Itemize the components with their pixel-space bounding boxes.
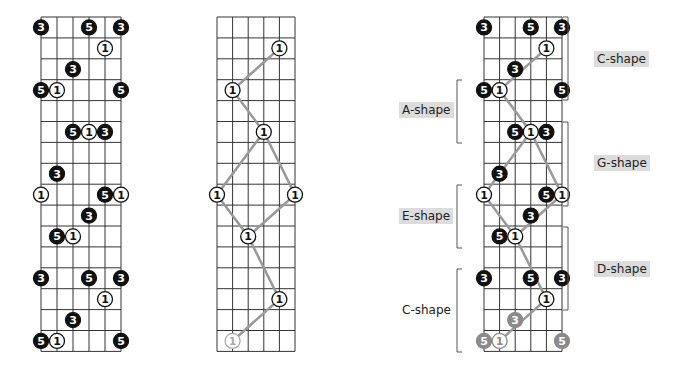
svg-text:1: 1 [101, 293, 109, 306]
note-marker: 1 [508, 229, 523, 244]
note-marker: 5 [34, 333, 49, 348]
svg-text:1: 1 [117, 189, 125, 202]
svg-text:1: 1 [37, 189, 45, 202]
note-marker: 5 [492, 229, 507, 244]
fretboard-canvas: 3531351551331513513531351511111111353135… [0, 0, 677, 375]
svg-text:5: 5 [558, 84, 566, 97]
svg-text:3: 3 [117, 21, 125, 34]
svg-text:5: 5 [543, 189, 551, 202]
note-marker: 1 [288, 187, 303, 202]
shape-bracket [457, 80, 462, 143]
note-marker: 1 [523, 124, 538, 139]
svg-text:5: 5 [53, 230, 61, 243]
note-marker: 5 [555, 83, 570, 98]
note-marker: 3 [555, 271, 570, 286]
note-marker: 5 [34, 83, 49, 98]
note-marker: 3 [66, 313, 81, 328]
note-marker: 3 [98, 124, 113, 139]
note-marker: 5 [523, 20, 538, 35]
note-marker: 5 [477, 333, 492, 348]
note-marker: 5 [98, 187, 113, 202]
svg-text:3: 3 [53, 168, 61, 181]
svg-text:3: 3 [117, 272, 125, 285]
svg-text:5: 5 [527, 21, 535, 34]
note-marker: 5 [114, 333, 129, 348]
svg-text:3: 3 [558, 272, 566, 285]
note-marker: 3 [555, 20, 570, 35]
svg-text:3: 3 [511, 63, 519, 76]
svg-text:1: 1 [85, 126, 93, 139]
svg-text:3: 3 [511, 314, 519, 327]
note-marker: 1 [492, 333, 507, 348]
note-marker: 5 [82, 271, 97, 286]
note-marker: 1 [82, 124, 97, 139]
svg-text:3: 3 [543, 126, 551, 139]
svg-text:1: 1 [229, 84, 237, 97]
svg-text:5: 5 [511, 126, 519, 139]
svg-text:1: 1 [229, 335, 237, 348]
note-marker: 5 [523, 271, 538, 286]
svg-text:1: 1 [543, 42, 551, 55]
svg-text:5: 5 [85, 21, 93, 34]
note-marker: 1 [241, 229, 256, 244]
note-marker: 1 [477, 187, 492, 202]
a-shape-label: A-shape [399, 102, 454, 118]
svg-text:1: 1 [53, 335, 61, 348]
note-marker: 3 [34, 271, 49, 286]
svg-text:1: 1 [480, 189, 488, 202]
note-marker: 1 [272, 292, 287, 307]
svg-text:1: 1 [213, 189, 221, 202]
svg-text:3: 3 [101, 126, 109, 139]
svg-text:1: 1 [69, 230, 77, 243]
note-marker: 3 [477, 271, 492, 286]
note-marker: 1 [50, 83, 65, 98]
note-marker: 1 [225, 333, 240, 348]
note-marker: 1 [225, 83, 240, 98]
svg-text:3: 3 [527, 210, 535, 223]
note-marker: 1 [50, 333, 65, 348]
note-marker: 3 [508, 313, 523, 328]
svg-text:5: 5 [480, 335, 488, 348]
svg-text:3: 3 [37, 272, 45, 285]
svg-text:1: 1 [558, 189, 566, 202]
svg-text:1: 1 [276, 293, 284, 306]
svg-text:3: 3 [480, 21, 488, 34]
svg-text:3: 3 [496, 168, 504, 181]
svg-text:3: 3 [558, 21, 566, 34]
note-marker: 3 [82, 208, 97, 223]
g-shape-label: G-shape [594, 155, 650, 171]
note-marker: 1 [98, 41, 113, 56]
d-shape-label: D-shape [594, 261, 650, 277]
note-marker: 1 [539, 292, 554, 307]
note-marker: 1 [210, 187, 225, 202]
note-marker: 3 [34, 20, 49, 35]
svg-text:5: 5 [527, 272, 535, 285]
svg-text:5: 5 [496, 230, 504, 243]
svg-text:1: 1 [101, 42, 109, 55]
svg-text:1: 1 [291, 189, 299, 202]
note-marker: 3 [50, 166, 65, 181]
svg-text:5: 5 [85, 272, 93, 285]
svg-text:1: 1 [244, 230, 252, 243]
svg-text:5: 5 [37, 84, 45, 97]
shapes-diagram: 35313515513315135135313515 [477, 17, 570, 351]
e-shape-label: E-shape [399, 208, 453, 224]
shape-bracket [563, 227, 568, 310]
note-marker: 3 [66, 62, 81, 77]
svg-text:3: 3 [85, 210, 93, 223]
svg-text:3: 3 [69, 63, 77, 76]
svg-text:1: 1 [496, 335, 504, 348]
note-marker: 3 [539, 124, 554, 139]
note-marker: 1 [555, 187, 570, 202]
c-shape-bottom-label: C-shape [399, 302, 454, 318]
svg-text:5: 5 [101, 189, 109, 202]
svg-text:1: 1 [527, 126, 535, 139]
note-marker: 5 [114, 83, 129, 98]
note-marker: 5 [508, 124, 523, 139]
note-marker: 1 [492, 83, 507, 98]
note-marker: 5 [82, 20, 97, 35]
svg-text:1: 1 [276, 42, 284, 55]
svg-text:1: 1 [53, 84, 61, 97]
note-marker: 5 [555, 333, 570, 348]
svg-text:1: 1 [260, 126, 268, 139]
